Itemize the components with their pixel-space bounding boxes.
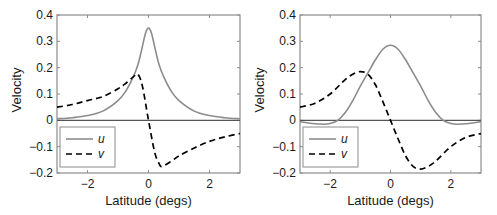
legend: uv: [60, 127, 115, 167]
charts-canvas: −0.2−0.100.10.20.30.4−202Latitude (degs)…: [0, 0, 497, 215]
chart-1: −0.2−0.100.10.20.30.4−202Latitude (degs)…: [9, 8, 240, 208]
y-tick-label: 0.4: [36, 8, 53, 22]
x-tick-label: −2: [81, 177, 95, 191]
x-axis-label: Latitude (degs): [347, 193, 434, 208]
legend-label-v: v: [341, 147, 348, 161]
legend: uv: [303, 127, 358, 167]
y-tick-label: 0.1: [36, 87, 53, 101]
x-tick-label: 2: [447, 177, 454, 191]
x-tick-label: −2: [323, 177, 337, 191]
y-tick-label: 0: [46, 113, 53, 127]
y-tick-label: 0.4: [279, 8, 296, 22]
legend-label-u: u: [341, 132, 348, 146]
series-u-line: [57, 28, 240, 119]
y-tick-label: 0.3: [279, 34, 296, 48]
legend-label-v: v: [98, 147, 105, 161]
y-tick-label: 0.2: [36, 61, 53, 75]
y-tick-label: 0.3: [36, 34, 53, 48]
x-tick-label: 0: [387, 177, 394, 191]
chart-2: −0.2−0.100.10.20.30.4−202Latitude (degs)…: [252, 8, 481, 208]
y-tick-label: 0.2: [279, 61, 296, 75]
y-axis-label: Velocity: [9, 67, 24, 112]
x-axis-label: Latitude (degs): [105, 193, 192, 208]
series-u-line: [300, 45, 481, 124]
y-tick-label: −0.2: [29, 166, 53, 180]
y-tick-label: 0: [289, 113, 296, 127]
legend-label-u: u: [98, 132, 105, 146]
y-tick-label: −0.1: [29, 140, 53, 154]
y-tick-label: −0.2: [272, 166, 296, 180]
y-tick-label: −0.1: [272, 140, 296, 154]
y-tick-label: 0.1: [279, 87, 296, 101]
y-axis-label: Velocity: [252, 67, 267, 112]
x-tick-label: 0: [145, 177, 152, 191]
x-tick-label: 2: [206, 177, 213, 191]
